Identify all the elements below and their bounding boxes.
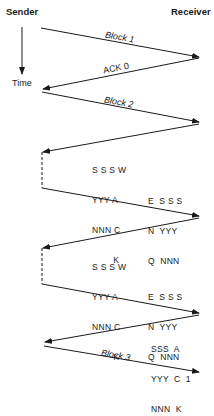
receiver-header: Receiver <box>171 7 211 17</box>
wack-1-line: S S S W <box>92 165 126 175</box>
enq-2-line: E S S S <box>148 292 183 302</box>
wack-1-line: NNN C <box>92 225 126 235</box>
wack-1-line: YYY A <box>92 195 126 205</box>
enq-1-line: E S S S <box>148 196 183 206</box>
wack-2-line: K <box>92 352 126 362</box>
enq-1-line: Q NNN <box>148 256 183 266</box>
ack-1-line: YYY C 1 <box>151 374 191 384</box>
ack-1-annotation: SSS A YYY C 1 NNN K <box>151 324 191 416</box>
ack-1-line: SSS A <box>151 344 191 354</box>
time-label: Time <box>12 78 32 88</box>
sender-header: Sender <box>6 7 38 17</box>
enq-1-line: N YYY <box>148 226 183 236</box>
wack-2-line: YYY A <box>92 292 126 302</box>
enq-1-annotation: E S S S N YYY Q NNN <box>148 176 183 276</box>
ack-1-line: NNN K <box>151 404 191 414</box>
wack-2-line: S S S W <box>92 262 126 272</box>
wack-2-line: NNN C <box>92 322 126 332</box>
wack-2-annotation: S S S W YYY A NNN C K <box>92 242 126 372</box>
